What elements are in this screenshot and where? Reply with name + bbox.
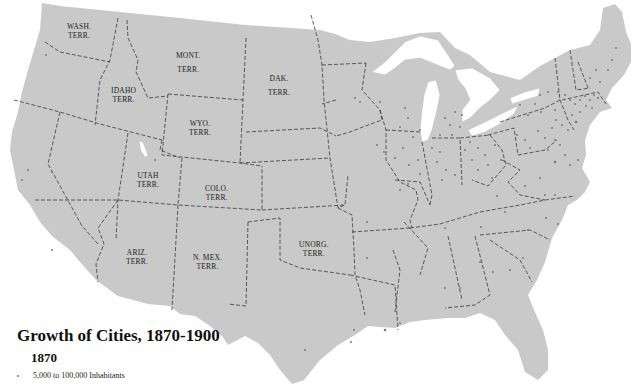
label-idaho-terr: IDAHO TERR. bbox=[111, 84, 136, 106]
territory-name: MONT. bbox=[176, 49, 200, 62]
territory-suffix: TERR. bbox=[67, 29, 91, 42]
label-dak-terr: DAK. TERR. bbox=[268, 72, 290, 99]
territory-suffix: TERR. bbox=[268, 86, 290, 99]
map-subtitle-year: 1870 bbox=[31, 350, 57, 366]
small-dot-icon bbox=[17, 375, 19, 377]
label-mont-terr: MONT. TERR. bbox=[176, 49, 200, 76]
legend: 5,000 to 100,000 Inhabitants bbox=[17, 371, 125, 380]
territory-suffix: TERR. bbox=[126, 255, 148, 268]
territory-suffix: TERR. bbox=[189, 126, 211, 139]
label-unorg-terr: UNORG. TERR. bbox=[299, 238, 329, 260]
territory-suffix: TERR. bbox=[111, 93, 136, 106]
territory-suffix: TERR. bbox=[299, 247, 329, 260]
label-colo-terr: COLO. TERR. bbox=[205, 182, 228, 204]
map-title: Growth of Cities, 1870-1900 bbox=[17, 326, 220, 346]
label-ariz-terr: ARIZ. TERR. bbox=[126, 246, 148, 268]
territory-suffix: TERR. bbox=[137, 178, 159, 191]
label-wash-terr: WASH. TERR. bbox=[67, 20, 91, 42]
territory-suffix: TERR. bbox=[205, 191, 228, 204]
territory-name: DAK. bbox=[268, 72, 290, 85]
legend-label: 5,000 to 100,000 Inhabitants bbox=[33, 371, 125, 380]
label-wyo-terr: WYO. TERR. bbox=[189, 117, 211, 139]
territory-suffix: TERR. bbox=[176, 63, 200, 76]
label-nmex-terr: N. MEX. TERR. bbox=[193, 251, 222, 273]
label-utah-terr: UTAH TERR. bbox=[137, 169, 159, 191]
territory-suffix: TERR. bbox=[193, 260, 222, 273]
